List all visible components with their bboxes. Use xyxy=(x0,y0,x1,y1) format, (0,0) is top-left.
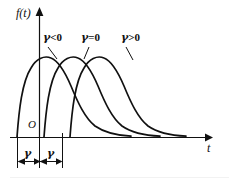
label-leader-lines xyxy=(48,47,133,60)
x-axis xyxy=(10,134,213,142)
y-axis-label: f(t) xyxy=(16,7,31,19)
leader-line-gamma-positive xyxy=(126,47,133,60)
curve-label-gamma-negative: γ<0 xyxy=(43,32,62,43)
curve-label-gamma-zero: γ=0 xyxy=(81,32,100,43)
dimension-label-gamma-right: γ xyxy=(47,148,54,159)
y-axis-arrowhead xyxy=(36,7,44,16)
x-axis-label: t xyxy=(207,142,210,154)
leader-line-gamma-zero xyxy=(84,47,89,59)
gamma-relation: =0 xyxy=(88,31,100,43)
curve-gamma-positive xyxy=(70,57,186,137)
gamma-relation: >0 xyxy=(128,31,140,43)
origin-label: O xyxy=(28,119,36,130)
gamma-relation: <0 xyxy=(50,31,62,43)
dimension-label-gamma-left: γ xyxy=(24,148,31,159)
curve-label-gamma-positive: γ>0 xyxy=(121,32,140,43)
figure-canvas xyxy=(0,0,239,179)
dimension-arrow-left-2 xyxy=(40,158,48,165)
gamma-shift-curve-figure: f(t) t O γ<0 γ=0 γ>0 γ γ xyxy=(0,0,239,179)
dimension-arrow-right-2 xyxy=(56,158,63,165)
y-axis xyxy=(36,7,44,138)
